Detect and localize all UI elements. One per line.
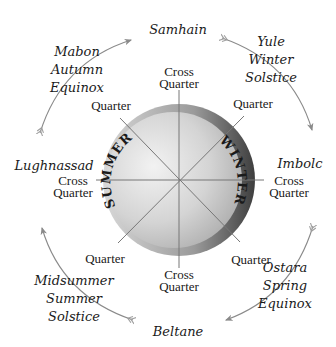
wheel-of-the-year-diagram: SUMMER WINTER Samhain Beltane Lughnassad…: [0, 0, 336, 347]
spoke-label-right: Cross Quarter: [262, 175, 316, 199]
quarter-text: Quarter: [159, 281, 199, 293]
festival-midsummer: Midsummer Summer Solstice: [26, 272, 122, 326]
midsummer-season: Summer: [46, 290, 102, 308]
quarter-text: Quarter: [159, 78, 199, 90]
mabon-event: Equinox: [50, 79, 104, 97]
spoke-label-upper-left: Quarter: [86, 99, 136, 112]
festival-mabon: Mabon Autumn Equinox: [42, 43, 112, 97]
yule-name: Yule: [257, 33, 285, 51]
spoke-label-lower-left: Quarter: [80, 252, 130, 265]
festival-ostara: Ostara Spring Equinox: [250, 259, 320, 313]
festival-yule: Yule Winter Solstice: [236, 33, 306, 87]
ostara-event: Equinox: [258, 295, 312, 313]
mabon-name: Mabon: [54, 43, 100, 61]
quarter-text: Quarter: [53, 187, 93, 199]
quarter-text: Quarter: [269, 187, 309, 199]
spoke-label-bottom: Cross Quarter: [152, 269, 206, 293]
midsummer-name: Midsummer: [34, 272, 113, 290]
yule-event: Solstice: [245, 69, 297, 87]
mabon-season: Autumn: [51, 61, 103, 79]
festival-beltane: Beltane: [150, 325, 206, 338]
spoke-label-lower-right: Quarter: [226, 253, 276, 266]
yule-season: Winter: [249, 51, 294, 69]
festival-lughnassad: Lughnassad: [12, 159, 96, 172]
ostara-season: Spring: [263, 277, 307, 295]
spoke-label-left: Cross Quarter: [46, 175, 100, 199]
midsummer-event: Solstice: [48, 308, 100, 326]
spoke-label-upper-right: Quarter: [228, 97, 278, 110]
festival-samhain: Samhain: [148, 23, 208, 36]
festival-imbolc: Imbolc: [276, 157, 324, 170]
spoke-label-top: Cross Quarter: [152, 66, 206, 90]
